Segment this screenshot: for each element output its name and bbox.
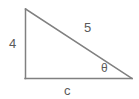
right-triangle-figure: 4 5 θ c: [0, 0, 139, 99]
label-hypotenuse: 5: [84, 21, 91, 34]
label-angle-theta: θ: [101, 62, 108, 74]
hypotenuse-line: [26, 9, 133, 79]
label-base: c: [64, 84, 71, 97]
label-vertical-leg: 4: [9, 37, 16, 50]
